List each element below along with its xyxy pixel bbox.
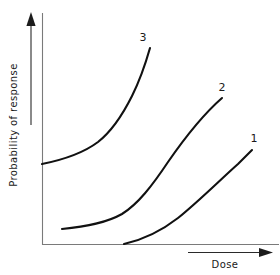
dose-response-figure: 3 2 1 Probability of response Dose — [0, 0, 280, 275]
chart-canvas: 3 2 1 Probability of response Dose — [0, 0, 280, 275]
x-axis-direction-arrow-head — [259, 248, 273, 257]
curve-label-2: 2 — [219, 81, 226, 94]
curve-label-3: 3 — [140, 31, 147, 44]
curve-label-1: 1 — [251, 132, 258, 145]
curve-2 — [62, 98, 222, 229]
x-axis-title: Dose — [212, 259, 239, 270]
y-axis-title: Probability of response — [8, 63, 19, 186]
curve-1 — [124, 150, 252, 244]
y-axis-direction-arrow-head — [26, 12, 35, 26]
curve-3 — [42, 48, 150, 164]
